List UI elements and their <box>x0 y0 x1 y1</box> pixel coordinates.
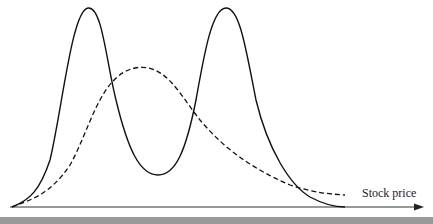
bimodal-curve <box>12 8 345 207</box>
x-axis-label: Stock price <box>362 186 416 201</box>
lognormal-curve <box>12 67 345 207</box>
x-axis-arrow-icon <box>414 204 424 211</box>
bottom-divider <box>0 217 433 224</box>
